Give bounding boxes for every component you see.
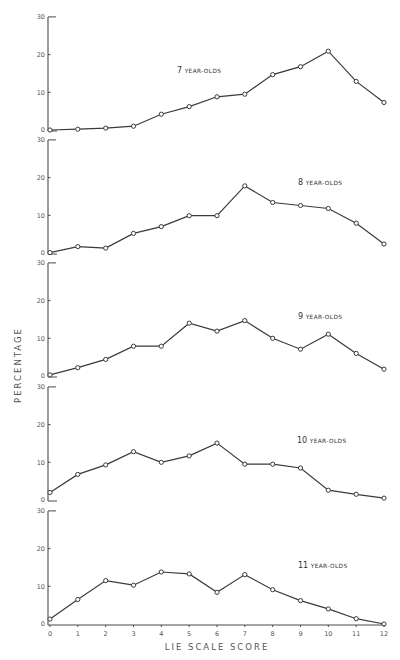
y-tick-label: 20 xyxy=(37,545,45,553)
x-tick-label: 10 xyxy=(324,630,332,638)
data-point xyxy=(215,95,219,99)
panel-9-year-olds: 01020309 YEAR-OLDS xyxy=(37,259,386,380)
data-point xyxy=(48,490,52,494)
data-point xyxy=(187,572,191,576)
data-point xyxy=(271,73,275,77)
panel-title: 9 YEAR-OLDS xyxy=(298,312,342,321)
series-line-10 xyxy=(50,443,384,498)
data-point xyxy=(76,127,80,131)
data-point xyxy=(159,225,163,229)
x-tick-label: 9 xyxy=(298,630,302,638)
y-axis-title: PERCENTAGE xyxy=(13,327,23,403)
panel-7-year-olds: 01020307 YEAR-OLDS xyxy=(37,13,386,134)
panel-8-year-olds: 01020308 YEAR-OLDS xyxy=(37,136,386,257)
data-point xyxy=(215,441,219,445)
x-tick-label: 7 xyxy=(243,630,247,638)
x-axis-tick-labels: 0123456789101112 xyxy=(48,625,388,638)
data-point xyxy=(187,105,191,109)
data-point xyxy=(271,336,275,340)
data-point xyxy=(354,492,358,496)
x-axis-title: LIE SCALE SCORE xyxy=(165,642,270,652)
y-tick-label: 10 xyxy=(37,583,45,591)
data-point xyxy=(354,617,358,621)
data-point xyxy=(76,245,80,249)
panels-group: 01020307 YEAR-OLDS01020308 YEAR-OLDS0102… xyxy=(37,13,386,628)
y-tick-label: 20 xyxy=(37,51,45,59)
data-point xyxy=(104,357,108,361)
data-point xyxy=(243,184,247,188)
x-tick-label: 4 xyxy=(159,630,163,638)
x-tick-label: 5 xyxy=(187,630,191,638)
y-tick-label: 0 xyxy=(41,372,45,380)
data-point xyxy=(159,570,163,574)
panel-title-text: YEAR-OLDS xyxy=(310,563,348,569)
data-point xyxy=(104,246,108,250)
y-tick-label: 10 xyxy=(37,212,45,220)
data-point xyxy=(159,112,163,116)
data-point xyxy=(187,454,191,458)
data-point xyxy=(298,347,302,351)
data-point xyxy=(271,200,275,204)
panel-title: 11 YEAR-OLDS xyxy=(298,561,348,570)
x-tick-label: 12 xyxy=(380,630,388,638)
y-tick-label: 30 xyxy=(37,507,45,515)
data-point xyxy=(104,463,108,467)
x-tick-label: 6 xyxy=(215,630,219,638)
data-point xyxy=(326,332,330,336)
data-point xyxy=(382,496,386,500)
y-tick-label: 20 xyxy=(37,297,45,305)
panel-title-text: YEAR-OLDS xyxy=(309,438,347,444)
panel-title-text: YEAR-OLDS xyxy=(305,180,343,186)
data-point xyxy=(243,319,247,323)
panel-title-text: YEAR-OLDS xyxy=(184,68,222,74)
data-point xyxy=(76,597,80,601)
data-point xyxy=(298,65,302,69)
data-point xyxy=(243,92,247,96)
data-point xyxy=(298,203,302,207)
x-tick-label: 8 xyxy=(271,630,275,638)
panel-title-number: 9 xyxy=(298,312,306,321)
panel-title: 8 YEAR-OLDS xyxy=(298,178,342,187)
y-tick-label: 0 xyxy=(41,249,45,257)
data-point xyxy=(326,49,330,53)
x-tick-label: 1 xyxy=(76,630,80,638)
y-tick-label: 10 xyxy=(37,89,45,97)
data-point xyxy=(48,373,52,377)
data-point xyxy=(326,488,330,492)
panel-title: 10 YEAR-OLDS xyxy=(297,436,347,445)
y-tick-label: 0 xyxy=(41,620,45,628)
data-point xyxy=(131,583,135,587)
x-tick-label: 0 xyxy=(48,630,52,638)
data-point xyxy=(104,579,108,583)
panel-title-number: 7 xyxy=(177,66,185,75)
data-point xyxy=(326,607,330,611)
data-point xyxy=(187,321,191,325)
data-point xyxy=(298,466,302,470)
y-tick-label: 20 xyxy=(37,174,45,182)
data-point xyxy=(76,472,80,476)
data-point xyxy=(131,124,135,128)
panel-title-text: YEAR-OLDS xyxy=(305,314,343,320)
chart: 01020307 YEAR-OLDS01020308 YEAR-OLDS0102… xyxy=(0,0,400,660)
y-tick-label: 30 xyxy=(37,259,45,267)
x-tick-label: 11 xyxy=(352,630,360,638)
data-point xyxy=(354,221,358,225)
data-point xyxy=(48,251,52,255)
data-point xyxy=(271,462,275,466)
data-point xyxy=(215,590,219,594)
y-tick-label: 20 xyxy=(37,421,45,429)
data-point xyxy=(382,100,386,104)
data-point xyxy=(104,126,108,130)
data-point xyxy=(382,367,386,371)
data-point xyxy=(326,206,330,210)
data-point xyxy=(215,329,219,333)
y-tick-label: 10 xyxy=(37,459,45,467)
data-point xyxy=(243,573,247,577)
panel-title-number: 8 xyxy=(298,178,306,187)
data-point xyxy=(354,79,358,83)
data-point xyxy=(382,242,386,246)
data-point xyxy=(298,599,302,603)
data-point xyxy=(131,231,135,235)
y-tick-label: 30 xyxy=(37,383,45,391)
data-point xyxy=(271,588,275,592)
